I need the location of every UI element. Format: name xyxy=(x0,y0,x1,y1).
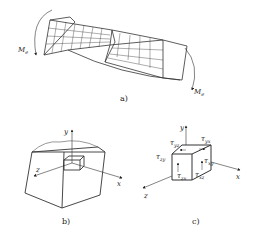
axis-z-c: z xyxy=(143,192,148,200)
stress-tau-xy: τxy xyxy=(204,157,214,167)
moment-label-right: Me xyxy=(193,88,204,97)
moment-arrow-right xyxy=(185,48,195,90)
axis-x-b: x xyxy=(117,180,121,188)
twisted-bar xyxy=(44,17,187,80)
stress-tau-zy: τzy xyxy=(156,153,166,163)
block-b xyxy=(25,141,105,208)
axis-y-b: y xyxy=(63,128,69,136)
axis-y-c: y xyxy=(179,124,185,132)
caption-b: b) xyxy=(62,217,70,226)
caption-a: a) xyxy=(120,94,128,103)
axis-z-b: z xyxy=(35,166,40,174)
moment-label-left: Me xyxy=(17,46,28,55)
stress-tau-yx: τyx xyxy=(201,135,211,145)
stress-tau-xz: τxz xyxy=(195,171,205,180)
axis-x-c: x xyxy=(236,173,240,181)
stress-tau-yz: τyz xyxy=(170,139,180,149)
caption-c: c) xyxy=(192,217,200,226)
diagram-canvas: Me Me a) y x z b) y x z τyz τyx τzy τ xyxy=(0,0,261,241)
axes-b xyxy=(34,130,122,178)
